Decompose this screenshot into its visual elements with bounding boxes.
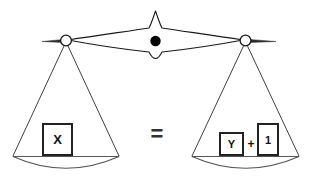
pivot-dot (150, 36, 160, 46)
plus-sign: + (245, 136, 257, 152)
scale-beam (68, 11, 243, 59)
beam-right-tip (249, 39, 276, 42)
left-cord-inner (68, 46, 119, 156)
left-pan-bowl (13, 157, 119, 169)
right-hanger-joint (240, 35, 251, 46)
block-one: 1 (257, 123, 279, 156)
balance-scale-diagram: X = Y + 1 (0, 0, 311, 183)
right-pan-bowl (192, 157, 299, 169)
block-x: X (42, 123, 73, 156)
left-hanger-joint (61, 35, 72, 46)
equals-sign: = (145, 121, 169, 147)
block-y: Y (219, 132, 244, 156)
